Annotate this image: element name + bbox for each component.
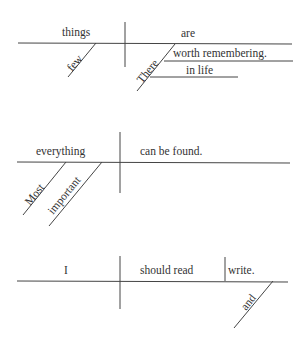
baseline xyxy=(18,43,292,44)
word-should-read: should read xyxy=(140,264,194,276)
word-i: I xyxy=(64,264,68,276)
word-in-life: in life xyxy=(186,64,213,76)
word-write: write. xyxy=(228,264,255,276)
word-everything: everything xyxy=(36,145,85,158)
baseline xyxy=(17,281,288,282)
word-are: are xyxy=(181,27,195,39)
diagram-2: everything can be found. Most important xyxy=(17,132,290,226)
word-and: and xyxy=(238,292,258,313)
baseline xyxy=(17,162,290,163)
word-few: few xyxy=(64,52,85,73)
word-worth-remembering: worth remembering. xyxy=(173,47,267,60)
word-things: things xyxy=(62,26,91,39)
diagram-3: I should read write. and xyxy=(17,256,288,328)
word-there: There xyxy=(134,57,160,85)
sentence-diagrams: things are worth remembering. in life fe… xyxy=(0,0,308,347)
word-can-be-found: can be found. xyxy=(140,145,202,157)
word-most: Most xyxy=(22,181,47,208)
diagram-1: things are worth remembering. in life fe… xyxy=(18,22,293,91)
